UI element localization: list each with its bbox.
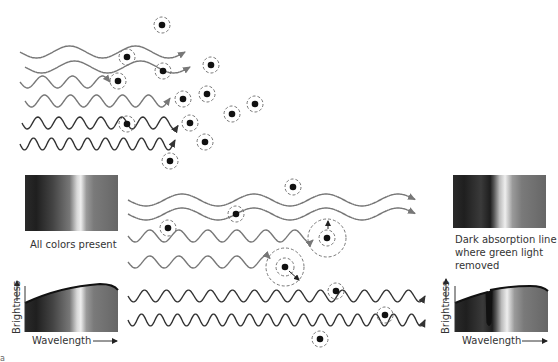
atom-12: [197, 134, 213, 150]
light-wave-4: [128, 256, 270, 268]
excited-electron-arrow-2: [289, 271, 299, 280]
right-spectrum-caption-1: Dark absorption line: [455, 234, 557, 245]
atom-3: [155, 63, 171, 79]
nucleus: [167, 158, 174, 165]
nucleus: [282, 264, 289, 271]
absorption-dip: [486, 290, 492, 326]
atom-2: [228, 206, 244, 222]
atom-5: [110, 73, 126, 89]
right-brightness-graph: Brightness Wavelength: [440, 279, 548, 346]
atom-11: [182, 115, 198, 131]
left-spectrum-caption: All colors present: [30, 239, 117, 250]
light-wave-1: [20, 46, 185, 58]
nucleus: [165, 225, 172, 232]
nucleus: [187, 120, 194, 127]
top-wave-group: [20, 46, 190, 150]
left-x-label: Wavelength: [32, 335, 91, 346]
right-x-label: Wavelength: [462, 335, 521, 346]
left-y-label: Brightness: [11, 281, 22, 334]
right-spectrum-caption-2: where green light: [455, 247, 543, 258]
nucleus: [252, 101, 259, 108]
nucleus: [208, 62, 215, 69]
absorption-spectrum: [453, 175, 546, 228]
nucleus: [204, 91, 211, 98]
atom-8: [312, 331, 328, 347]
light-wave-6: [128, 314, 425, 326]
nucleus: [382, 312, 389, 319]
atom-6: [175, 91, 191, 107]
nucleus: [124, 121, 131, 128]
atom-13: [162, 153, 178, 169]
atom-4: [308, 219, 346, 257]
nucleus: [333, 288, 340, 295]
atom-8: [247, 96, 263, 112]
light-wave-3: [128, 230, 313, 242]
nucleus: [160, 68, 167, 75]
left-graph-fill: [25, 284, 118, 332]
nucleus: [233, 211, 240, 218]
light-wave-1: [128, 194, 415, 206]
light-wave-6: [20, 138, 175, 150]
absorption-diagram: All colors present Brightness Wavelength…: [0, 0, 558, 362]
atom-2: [119, 49, 135, 65]
atom-10: [119, 116, 135, 132]
atom-1: [154, 17, 170, 33]
atom-4: [203, 57, 219, 73]
nucleus: [324, 235, 331, 242]
bottom-wave-group: [128, 194, 425, 326]
right-graph-fill: [455, 286, 548, 332]
nucleus: [290, 184, 297, 191]
atom-1: [285, 179, 301, 195]
right-spectrum-caption-3: removed: [455, 260, 499, 271]
continuous-spectrum: [25, 175, 118, 231]
atom-5: [266, 248, 304, 286]
nucleus: [124, 54, 131, 61]
atom-9: [224, 106, 240, 122]
panel-letter: a: [0, 354, 5, 362]
light-wave-2: [128, 208, 415, 220]
light-wave-3: [20, 76, 110, 88]
atom-7: [199, 86, 215, 102]
nucleus: [159, 22, 166, 29]
nucleus: [229, 111, 236, 118]
top-atom-group: [110, 17, 263, 169]
light-wave-5: [128, 290, 425, 302]
nucleus: [202, 139, 209, 146]
nucleus: [180, 96, 187, 103]
left-brightness-graph: Brightness Wavelength: [11, 281, 118, 346]
nucleus: [317, 336, 324, 343]
light-wave-5: [22, 117, 178, 129]
nucleus: [115, 78, 122, 85]
bottom-atom-group: [160, 179, 393, 347]
atom-3: [160, 220, 176, 236]
atom-7: [377, 307, 393, 323]
light-wave-4: [25, 95, 170, 107]
right-y-label: Brightness: [440, 281, 451, 334]
